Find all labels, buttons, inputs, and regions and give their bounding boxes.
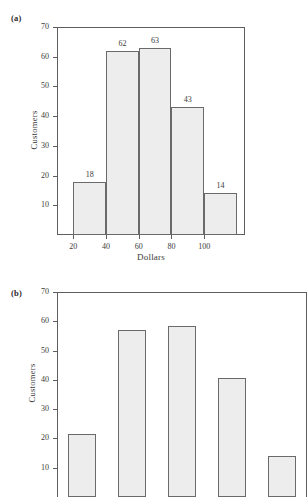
bar-value-label: 18 [75,170,105,179]
bar [106,51,139,235]
bar [168,326,196,497]
y-tick-mark [53,468,57,469]
bar [73,182,106,235]
x-tick-label: 60 [125,242,153,251]
y-tick-mark [53,438,57,439]
x-tick-mark [204,235,205,239]
chart-panel-b: (b) Customers 10203040506070 [0,278,303,493]
y-tick-label: 50 [23,81,49,90]
bar [171,107,204,235]
y-tick-mark [53,292,57,293]
y-tick-mark [53,116,57,117]
y-tick-label: 10 [23,463,49,472]
y-tick-label: 30 [23,404,49,413]
x-tick-label: 100 [190,242,218,251]
y-axis-label-a: Customers [29,90,39,170]
bar [204,193,237,235]
y-tick-mark [53,351,57,352]
bar [218,378,246,497]
x-tick-mark [139,235,140,239]
x-axis-label-a: Dollars [57,252,245,262]
y-tick-mark [53,321,57,322]
chart-panel-a: (a) Customers 1020304050607020406080100 … [0,0,303,272]
y-tick-label: 20 [23,171,49,180]
y-tick-label: 60 [23,52,49,61]
y-tick-mark [53,176,57,177]
y-tick-mark [53,205,57,206]
x-tick-label: 40 [92,242,120,251]
y-tick-label: 50 [23,346,49,355]
y-tick-label: 40 [23,375,49,384]
bar-value-label: 62 [107,39,137,48]
y-tick-label: 40 [23,111,49,120]
y-tick-mark [53,57,57,58]
panel-label-b: (b) [11,288,22,298]
panel-label-a: (a) [11,13,22,23]
y-tick-mark [53,409,57,410]
bar-value-label: 43 [173,95,203,104]
y-tick-label: 20 [23,433,49,442]
x-tick-mark [106,235,107,239]
x-tick-label: 20 [59,242,87,251]
y-tick-label: 10 [23,200,49,209]
bar [268,456,296,497]
y-tick-label: 70 [23,287,49,296]
bar [118,330,146,497]
y-tick-mark [53,27,57,28]
y-tick-label: 30 [23,141,49,150]
y-tick-mark [53,380,57,381]
y-tick-label: 60 [23,316,49,325]
bar [139,48,172,235]
x-tick-label: 80 [157,242,185,251]
bar-value-label: 63 [140,36,170,45]
y-tick-mark [53,86,57,87]
y-tick-label: 70 [23,22,49,31]
y-tick-mark [53,146,57,147]
x-tick-mark [171,235,172,239]
bar [68,434,96,497]
x-tick-mark [73,235,74,239]
bar-value-label: 14 [205,181,235,190]
